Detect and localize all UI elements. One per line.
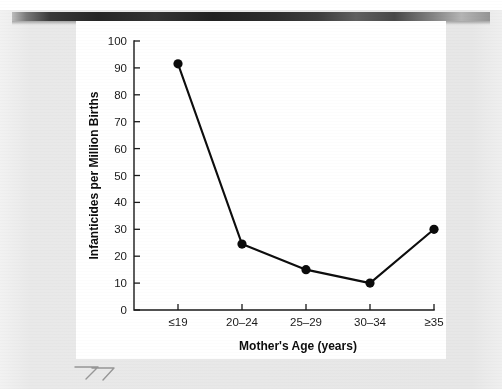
y-tick-label: 20	[114, 250, 127, 262]
handwritten-annotation	[72, 362, 118, 384]
y-tick-label: 40	[114, 196, 127, 208]
x-axis-ticks: ≤1920–2425–2930–34≥35	[168, 304, 443, 328]
x-axis-title: Mother's Age (years)	[239, 339, 357, 353]
data-markers	[173, 59, 438, 287]
y-tick-label: 80	[114, 89, 127, 101]
y-tick-label: 50	[114, 170, 127, 182]
data-point	[429, 225, 438, 234]
y-tick-label: 60	[114, 143, 127, 155]
axis-lines	[134, 41, 434, 310]
data-point	[301, 265, 310, 274]
y-axis-title: Infanticides per Million Births	[87, 91, 101, 259]
y-tick-label: 30	[114, 223, 127, 235]
x-tick-label: ≤19	[168, 316, 187, 328]
x-tick-label: 20–24	[226, 316, 259, 328]
y-tick-label: 90	[114, 62, 127, 74]
figure-card: 0102030405060708090100 ≤1920–2425–2930–3…	[76, 21, 446, 359]
data-point	[365, 279, 374, 288]
y-axis-ticks: 0102030405060708090100	[108, 35, 140, 316]
x-tick-label: 30–34	[354, 316, 387, 328]
y-tick-label: 70	[114, 116, 127, 128]
x-tick-label: 25–29	[290, 316, 322, 328]
scan-shadow-band	[12, 12, 490, 21]
y-tick-label: 100	[108, 35, 127, 47]
line-chart: 0102030405060708090100 ≤1920–2425–2930–3…	[76, 21, 446, 359]
data-line	[178, 64, 434, 283]
y-tick-label: 10	[114, 277, 127, 289]
y-tick-label: 0	[121, 304, 127, 316]
x-tick-label: ≥35	[424, 316, 443, 328]
scanned-page: 0102030405060708090100 ≤1920–2425–2930–3…	[0, 0, 502, 389]
data-point	[237, 239, 246, 248]
data-point	[173, 59, 182, 68]
